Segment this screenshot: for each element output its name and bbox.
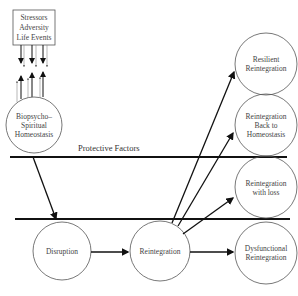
stressors-line-2: Adversity	[13, 23, 55, 33]
loss-line-2: with loss	[235, 188, 297, 197]
resilient-line-1: Resilient	[235, 55, 297, 64]
homeostasis-label: Biopsycho– Spiritual Homeostasis	[6, 112, 62, 139]
stressors-line-1: Stressors	[13, 13, 55, 23]
homeostasis-line-1: Biopsycho–	[6, 112, 62, 121]
dysfunctional-label: Dysfunctional Reintegration	[235, 244, 297, 262]
stressors-line-3: Life Events	[13, 33, 55, 43]
back-line-2: Back to	[235, 121, 297, 130]
homeostasis-line-3: Homeostasis	[6, 130, 62, 139]
back-line-3: Homeostasis	[235, 130, 297, 139]
back-line-1: Reintegration	[235, 112, 297, 121]
with-loss-label: Reintegration with loss	[235, 179, 297, 197]
back-to-homeostasis-label: Reintegration Back to Homeostasis	[235, 112, 297, 139]
protective-factors-label: Protective Factors	[78, 144, 140, 153]
resilient-line-2: Reintegration	[235, 64, 297, 73]
reintegration-label: Reintegration	[130, 247, 190, 256]
stressors-label: Stressors Adversity Life Events	[13, 13, 55, 43]
loss-line-1: Reintegration	[235, 179, 297, 188]
disruption-label: Disruption	[33, 247, 91, 256]
edge-reintegration-back	[178, 133, 233, 226]
resilient-label: Resilient Reintegration	[235, 55, 297, 73]
dys-line-1: Dysfunctional	[235, 244, 297, 253]
edge-homeostasis-disruption	[33, 157, 56, 219]
edge-reintegration-loss	[183, 198, 233, 234]
stressor-arrows-down	[21, 45, 47, 67]
homeostasis-line-2: Spiritual	[6, 121, 62, 130]
dys-line-2: Reintegration	[235, 253, 297, 262]
